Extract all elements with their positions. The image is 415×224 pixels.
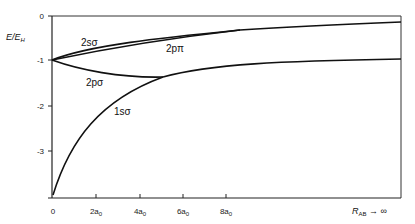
x-tick-label: 8a0: [220, 207, 233, 217]
label-2s-sigma: 2sσ: [81, 37, 99, 48]
y-axis-title: E/EH: [6, 32, 26, 43]
x-tick-label: 2a0: [90, 207, 103, 217]
energy-correlation-chart: 0 -1 -2 -3 0 2a0 4a0 6a0 8a0 E/EH RAB → …: [0, 0, 415, 224]
y-tick-label: 0: [40, 12, 45, 21]
curve-merged-tail: [163, 59, 401, 77]
x-tick-label: 6a0: [177, 207, 190, 217]
curves: [52, 22, 401, 195]
y-tick-label: -3: [37, 147, 45, 156]
label-2p-pi: 2pπ: [166, 43, 184, 54]
label-2p-sigma: 2pσ: [86, 77, 104, 88]
x-tick-label: 0: [51, 207, 56, 216]
x-axis-title: RAB → ∞: [352, 206, 387, 217]
curve-1s-sigma: [53, 77, 163, 195]
x-tick-label: 4a0: [134, 207, 147, 217]
y-tick-label: -2: [37, 102, 45, 111]
y-ticks: 0 -1 -2 -3: [37, 12, 52, 156]
label-1s-sigma: 1sσ: [114, 106, 132, 117]
curve-2p-sigma: [52, 60, 163, 77]
curve-2s-sigma: [52, 22, 401, 60]
x-ticks: 0 2a0 4a0 6a0 8a0: [51, 194, 233, 217]
y-tick-label: -1: [37, 56, 45, 65]
